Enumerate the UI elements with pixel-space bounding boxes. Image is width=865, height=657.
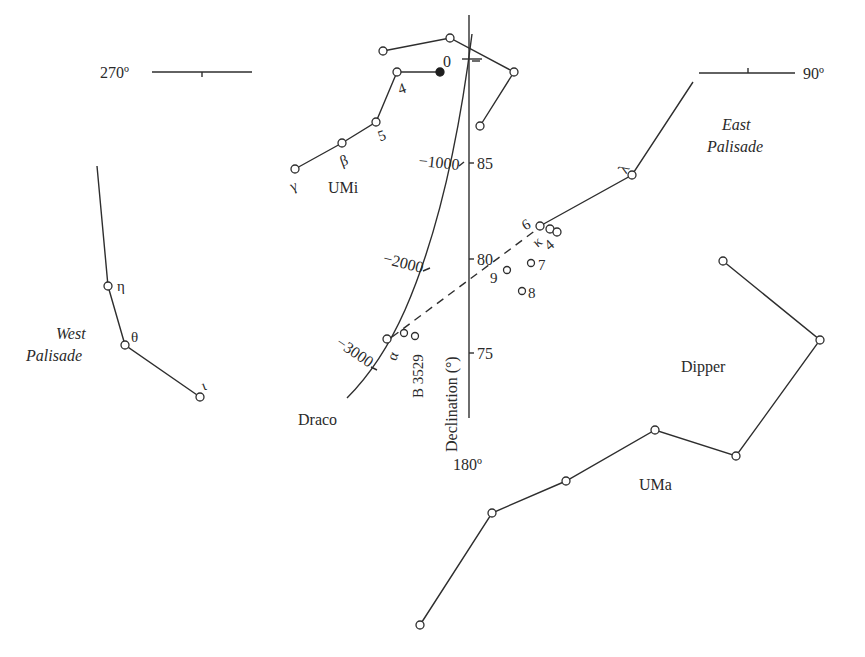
dashed-alignment-line [392, 230, 536, 337]
constellation-label-umi: UMi [328, 179, 359, 196]
precession-tick-minus-2000: −2000 [381, 249, 425, 275]
star-label-9: 9 [490, 270, 498, 286]
precession-tick-minus-1000: −1000 [418, 152, 461, 173]
star-label-eta: η [117, 278, 125, 294]
precession-curve [347, 34, 480, 398]
star-label-6: 6 [519, 216, 534, 234]
compass-west-bar [152, 72, 252, 77]
star-label-b3529: B 3529 [410, 354, 426, 398]
constellation-label-draco: Draco [298, 411, 337, 428]
star-label-theta: θ [131, 329, 138, 345]
declination-tick-85: 85 [477, 155, 493, 172]
east-palisade-line1: East [721, 116, 751, 133]
east-palisade-line2: Palisade [706, 138, 763, 155]
star-label-iota: ι [199, 377, 208, 393]
constellation-label-dipper: Dipper [681, 358, 726, 376]
draco-alpha-group [383, 330, 419, 344]
west-palisade-line2: Palisade [25, 347, 82, 364]
uma-dipper-line [416, 257, 824, 629]
star-label-8: 8 [528, 285, 536, 301]
west-palisade-line [97, 166, 204, 401]
star-label-umi-gamma: γ [287, 177, 300, 195]
declination-tick-75: 75 [477, 345, 493, 362]
compass-east-bar [699, 68, 795, 73]
star-label-umi-beta: β [338, 152, 351, 170]
west-palisade-line1: West [56, 325, 86, 342]
star-label-alpha: α [384, 349, 402, 362]
compass-east-label: 90º [803, 65, 824, 82]
star-label-4: 4 [541, 236, 557, 253]
precession-tick-minus-3000: −3000 [333, 333, 377, 370]
constellation-label-uma: UMa [639, 476, 672, 493]
compass-south-label: 180º [453, 456, 482, 473]
pole-star-marker [436, 68, 444, 76]
east-palisade-line [540, 82, 693, 226]
star-label-umi-5: 5 [376, 127, 389, 145]
precession-tick-0: 0 [443, 53, 451, 70]
star-label-umi-4: 4 [396, 79, 409, 97]
declination-tick-80: 80 [477, 251, 493, 268]
compass-west-label: 270º [100, 64, 129, 81]
star-label-7: 7 [538, 257, 546, 273]
star-chart-diagram: 270º 90º 180º 85 80 75 Declination (°) 0… [0, 0, 865, 657]
declination-axis-label: Declination (°) [443, 356, 461, 452]
